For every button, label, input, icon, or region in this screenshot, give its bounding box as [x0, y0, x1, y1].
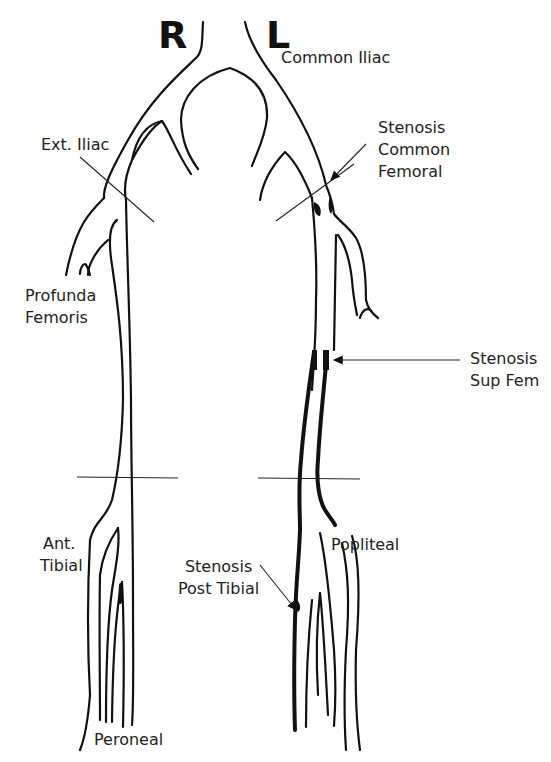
popliteal-label: Popliteal — [331, 534, 399, 556]
right-leg-arteries — [66, 121, 191, 750]
right-knee-line — [77, 477, 178, 478]
common-iliac-label: Common Iliac — [281, 47, 390, 69]
stenosis-common-femoral-label: Stenosis Common Femoral — [378, 117, 450, 183]
right-side-label: R — [158, 16, 187, 54]
common-femoral-arrow — [331, 144, 366, 180]
ant-tibial-label: Ant. Tibial — [40, 533, 83, 577]
common-femoral-leader — [276, 164, 354, 221]
arterial-tree-diagram — [0, 0, 551, 762]
profunda-femoris-label: Profunda Femoris — [25, 285, 96, 329]
stenosis-post-tibial-label: Stenosis Post Tibial — [178, 556, 259, 600]
peroneal-label: Peroneal — [94, 729, 163, 751]
ext-iliac-label: Ext. Iliac — [41, 134, 109, 156]
left-knee-line — [258, 478, 360, 479]
left-leg-arteries — [260, 152, 378, 750]
post-tibial-arrow — [260, 565, 296, 610]
stenosis-sup-fem-label: Stenosis Sup Fem — [470, 348, 539, 392]
